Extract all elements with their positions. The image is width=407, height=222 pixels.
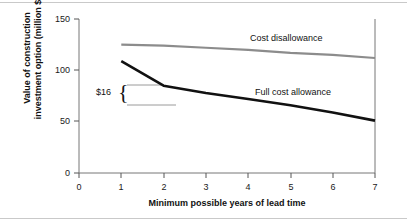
- xtick-label-0: 0: [70, 182, 88, 192]
- annotation-leader-lines: [127, 85, 176, 105]
- series-label-cost-disallowance: Cost disallowance: [250, 33, 323, 43]
- y-axis-title: Value of constructioninvestment option (…: [22, 0, 44, 138]
- series-line-full-cost-allowance: [121, 61, 375, 121]
- y-axis-ticks: [74, 19, 79, 173]
- annotation-brace-icon: {: [118, 81, 129, 103]
- annotation-gap-value: $16: [96, 87, 111, 97]
- ytick-label-150: 150: [44, 14, 70, 24]
- series-label-full-cost-allowance: Full cost allowance: [255, 87, 331, 97]
- xtick-label-2: 2: [155, 182, 173, 192]
- ytick-label-50: 50: [44, 116, 70, 126]
- ytick-label-0: 0: [44, 168, 70, 178]
- ytick-label-100: 100: [44, 65, 70, 75]
- xtick-label-4: 4: [239, 182, 257, 192]
- y-axis-title-line1: Value of construction: [22, 12, 32, 104]
- x-axis-ticks: [79, 173, 375, 178]
- chart-figure: 150 100 50 0 0 1 2 3 4 5 6 7 Value of co…: [0, 0, 407, 222]
- series-line-cost-disallowance: [121, 45, 375, 58]
- x-axis-title: Minimum possible years of lead time: [79, 198, 375, 208]
- xtick-label-1: 1: [112, 182, 130, 192]
- xtick-label-5: 5: [282, 182, 300, 192]
- y-axis-title-line2: investment option (million $): [33, 0, 43, 119]
- xtick-label-7: 7: [366, 182, 384, 192]
- xtick-label-6: 6: [324, 182, 342, 192]
- xtick-label-3: 3: [197, 182, 215, 192]
